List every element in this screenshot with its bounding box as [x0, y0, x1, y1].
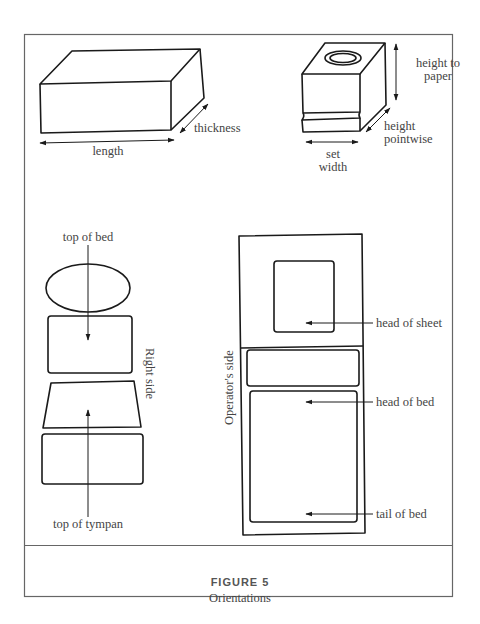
bottom-rectangle-shape [42, 434, 143, 484]
tail-of-bed-label: tail of bed [376, 508, 427, 521]
sheet-rectangle [274, 261, 334, 332]
height-to-paper-label: height to paper [398, 57, 478, 83]
set-width-line2: width [310, 161, 356, 174]
type-sort-drawing [302, 43, 386, 132]
rectangle-shape [48, 316, 132, 373]
top-of-bed-label: top of bed [52, 231, 124, 244]
head-rectangle [247, 350, 359, 386]
operators-side-label: Operator's side [222, 350, 237, 425]
length-arrow [40, 140, 174, 143]
height-pointwise-line2: pointwise [384, 133, 433, 146]
block-drawing [40, 49, 204, 133]
bed-divider [241, 346, 363, 348]
head-of-sheet-label: head of sheet [376, 317, 442, 330]
height-pointwise-label: height pointwise [384, 120, 433, 146]
figure-title: Orientations [0, 591, 480, 606]
forme-sequence-drawing [42, 264, 143, 484]
body-rectangle [250, 391, 357, 522]
height-to-paper-line2: paper [398, 70, 478, 83]
bed-outline [239, 234, 365, 535]
press-bed-drawing [239, 234, 365, 535]
right-side-label: Right side [142, 348, 157, 399]
set-width-label: set width [310, 148, 356, 174]
head-of-bed-label: head of bed [376, 396, 434, 409]
thickness-label: thickness [194, 122, 241, 135]
trapezoid-shape [43, 381, 141, 428]
top-of-tympan-label: top of tympan [44, 518, 132, 531]
figure-number: FIGURE 5 [0, 576, 480, 588]
length-label: length [80, 145, 136, 158]
